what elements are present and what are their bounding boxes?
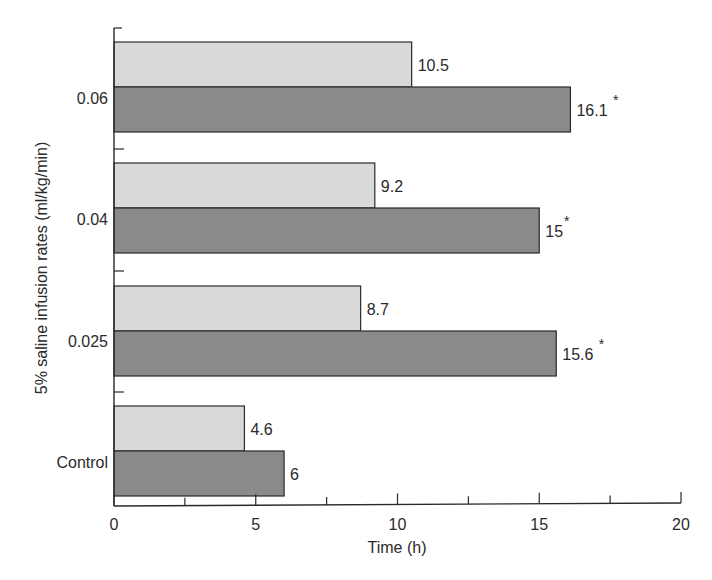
- bar-chart: 10.516.1*0.069.215*0.048.715.6*0.0254.66…: [0, 0, 712, 580]
- y-axis-title: 5% saline infusion rates (ml/kg/min): [33, 142, 50, 395]
- bar-light-0.06: [114, 42, 412, 87]
- significance-marker: *: [564, 213, 570, 229]
- value-label: 15.6: [562, 346, 593, 363]
- value-label: 4.6: [250, 421, 272, 438]
- value-label: 6: [290, 466, 299, 483]
- value-label: 9.2: [381, 178, 403, 195]
- category-label: 0.04: [77, 211, 108, 228]
- x-axis-title: Time (h): [368, 539, 427, 556]
- x-tick-label: 5: [251, 516, 260, 533]
- bar-dark-0.025: [114, 331, 556, 376]
- value-label: 16.1: [576, 102, 607, 119]
- significance-marker: *: [613, 92, 619, 108]
- bar-light-0.04: [114, 163, 375, 208]
- category-label: 0.06: [77, 90, 108, 107]
- bar-light-control: [114, 406, 244, 451]
- category-label: Control: [56, 454, 108, 471]
- bar-dark-control: [114, 451, 284, 496]
- significance-marker: *: [599, 336, 605, 352]
- x-tick-label: 10: [389, 516, 407, 533]
- value-label: 10.5: [418, 57, 449, 74]
- x-tick-label: 0: [110, 516, 119, 533]
- bar-dark-0.04: [114, 208, 539, 253]
- bars-group: [114, 42, 570, 496]
- x-tick-label: 20: [672, 516, 690, 533]
- value-label: 15: [545, 223, 563, 240]
- x-tick-label: 15: [530, 516, 548, 533]
- category-label: 0.025: [68, 333, 108, 350]
- value-label: 8.7: [367, 301, 389, 318]
- bar-light-0.025: [114, 286, 361, 331]
- bar-dark-0.06: [114, 87, 570, 132]
